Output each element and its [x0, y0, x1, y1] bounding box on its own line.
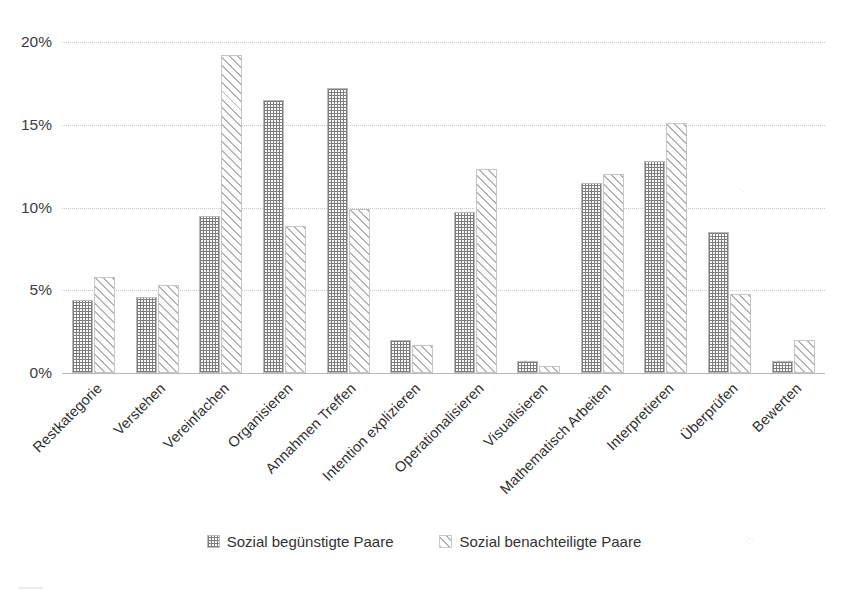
y-axis-tick-label: 5%	[30, 281, 52, 299]
y-axis-tick-label: 0%	[30, 364, 52, 382]
bar-series-1[interactable]	[708, 232, 729, 373]
legend-label: Sozial begünstigte Paare	[227, 533, 394, 550]
bar-group	[380, 42, 444, 373]
bar-series-2[interactable]	[412, 345, 433, 373]
bar-group	[761, 42, 825, 373]
legend-item[interactable]: Sozial benachteiligte Paare	[439, 533, 641, 550]
x-axis-labels: RestkategorieVerstehenVereinfachenOrgani…	[62, 376, 825, 496]
bar-series-2[interactable]	[603, 174, 624, 373]
chart-legend: Sozial begünstigte PaareSozial benachtei…	[0, 533, 848, 550]
bar-group	[571, 42, 635, 373]
bar-series-1[interactable]	[327, 88, 348, 373]
bar-chart: 0%5%10%15%20% RestkategorieVerstehenVere…	[0, 0, 848, 592]
bar-series-1[interactable]	[517, 361, 538, 373]
y-axis-tick-label: 20%	[21, 33, 52, 51]
bar-series-2[interactable]	[221, 55, 242, 373]
bar-series-2[interactable]	[476, 169, 497, 373]
bar-series-1[interactable]	[644, 161, 665, 373]
bar-series-2[interactable]	[285, 226, 306, 373]
legend-swatch-icon	[439, 535, 452, 548]
plot-area	[62, 42, 825, 373]
x-axis-label-cell: Restkategorie	[62, 376, 126, 496]
x-axis-label-cell: Überprüfen	[698, 376, 762, 496]
bar-group	[126, 42, 190, 373]
bar-series-2[interactable]	[666, 123, 687, 373]
bar-series-1[interactable]	[136, 297, 157, 373]
bar-series-1[interactable]	[581, 183, 602, 373]
axis-baseline	[62, 373, 825, 374]
bar-series-1[interactable]	[199, 216, 220, 373]
x-axis-label-cell: Bewerten	[761, 376, 825, 496]
x-axis-tick-label: Restkategorie	[30, 380, 105, 455]
bar-series-2[interactable]	[539, 366, 560, 373]
bar-series-1[interactable]	[772, 361, 793, 373]
bar-group	[443, 42, 507, 373]
bar-series-2[interactable]	[349, 209, 370, 373]
bar-series-1[interactable]	[454, 212, 475, 373]
bar-group	[316, 42, 380, 373]
legend-swatch-icon	[207, 535, 220, 548]
y-axis-tick-label: 15%	[21, 115, 52, 133]
bar-series-2[interactable]	[794, 340, 815, 373]
bar-groups	[62, 42, 825, 373]
y-axis-labels: 0%5%10%15%20%	[0, 42, 62, 373]
bar-series-1[interactable]	[72, 300, 93, 373]
legend-item[interactable]: Sozial begünstigte Paare	[207, 533, 394, 550]
bar-series-1[interactable]	[263, 100, 284, 373]
scan-artifact: ▁▁▁	[18, 576, 42, 589]
bar-group	[253, 42, 317, 373]
bar-series-2[interactable]	[94, 277, 115, 373]
bar-group	[634, 42, 698, 373]
bar-group	[62, 42, 126, 373]
legend-label: Sozial benachteiligte Paare	[459, 533, 641, 550]
y-axis-tick-label: 10%	[21, 198, 52, 216]
bar-series-1[interactable]	[390, 340, 411, 373]
bar-group	[507, 42, 571, 373]
bar-group	[698, 42, 762, 373]
bar-series-2[interactable]	[730, 294, 751, 373]
bar-group	[189, 42, 253, 373]
bar-series-2[interactable]	[158, 285, 179, 373]
